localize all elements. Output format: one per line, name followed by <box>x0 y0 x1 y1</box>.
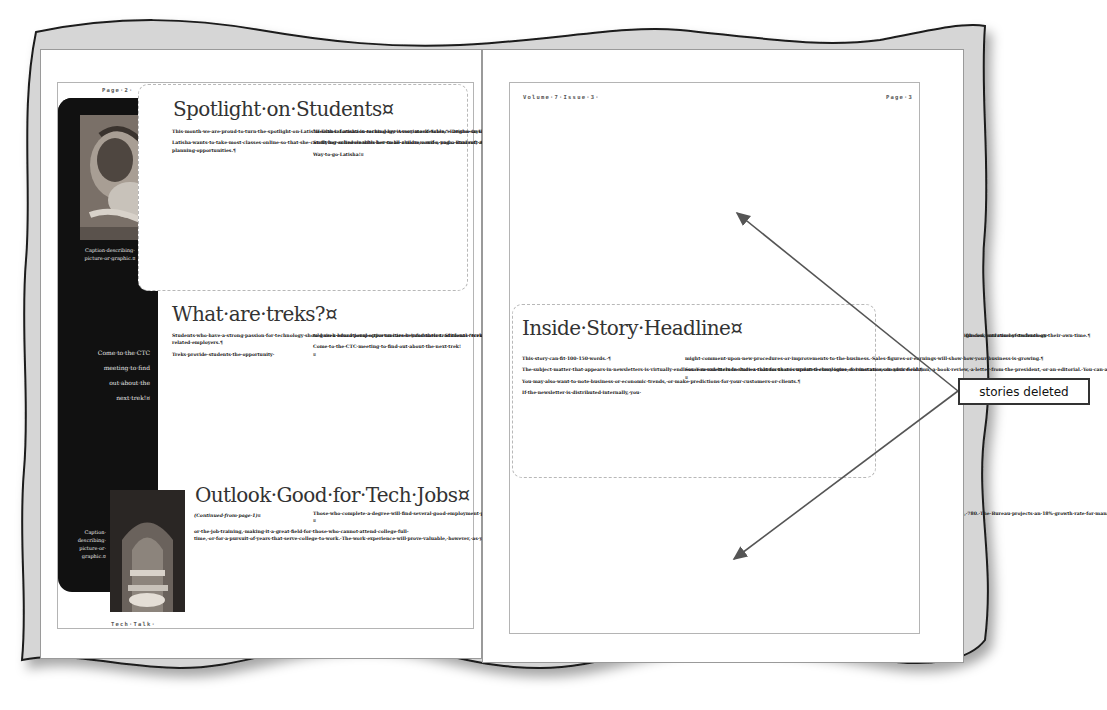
story-column-2: "Health·information·technology·is·very·m… <box>313 128 443 162</box>
story-column-2: Those·who·complete·a·degree·will·find·se… <box>313 510 443 529</box>
story-headline: Inside·Story·Headline¤ <box>522 316 742 340</box>
archway-photo <box>110 490 185 612</box>
right-page-header-volume: Volume·7·Issue·3· <box>523 94 600 100</box>
story-column-2: might·comment·upon·new·procedures·or·imp… <box>685 355 845 385</box>
bottom-photo-caption: Caption· describing· picture·or· graphic… <box>62 528 106 560</box>
stories-deleted-callout: stories deleted <box>958 378 1090 405</box>
pull-quote: Come·to·the·CTC meeting·to·find out·abou… <box>62 345 150 405</box>
story-column-1: or·the·job·training,·making·it·a·great·f… <box>194 528 312 547</box>
story-column-1: This·month·we·are·proud·to·turn·the·spot… <box>172 128 302 158</box>
story-continued-note: (Continued·from·page·1)¤ <box>194 512 314 519</box>
story-headline: What·are·treks?¤ <box>172 302 337 326</box>
story-column-1: Students·who·have·a·strong·passion·for·t… <box>172 332 302 362</box>
right-page-header-page-number: Page·3 <box>886 94 913 100</box>
story-column-2: to·gain·a·broad·perspective·on·career·in… <box>313 332 443 362</box>
left-page-footer: Tech·Talk· <box>111 621 156 627</box>
story-headline: Outlook·Good·for·Tech·Jobs¤ <box>195 483 470 507</box>
left-page-header: Page·2· <box>102 87 134 93</box>
story-column-1: This·story·can·fit·100-150·words.·¶ The·… <box>522 355 682 401</box>
story-headline: Spotlight·on·Students¤ <box>173 97 394 121</box>
